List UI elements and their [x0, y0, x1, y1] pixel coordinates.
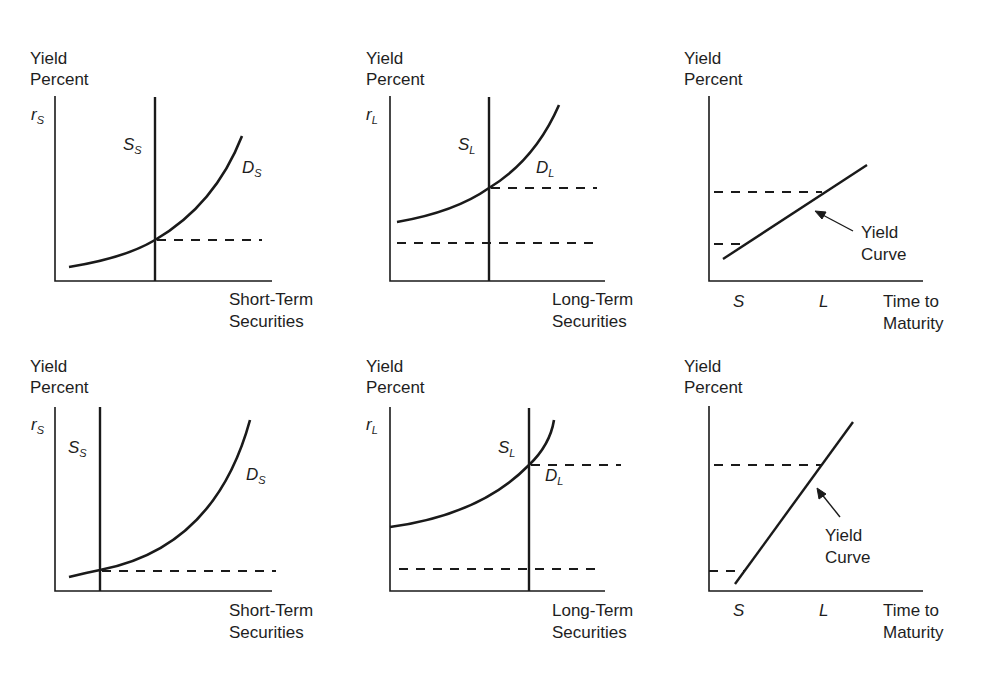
panel-2-y-label-line1: Yield: [366, 48, 403, 69]
panel-6-x-label-line1: Time to: [883, 600, 939, 621]
panel-3-y-label-line1: Yield: [684, 48, 721, 69]
panel-5-x-label-line2: Securities: [552, 622, 627, 643]
rate-subscript: L: [372, 424, 378, 436]
rate-symbol: r: [366, 415, 372, 434]
panel-4-supply-label: SS: [68, 437, 87, 460]
panel-1-x-label-line2: Securities: [229, 311, 304, 332]
panel-6-x-label-line2: Maturity: [883, 622, 943, 643]
panel-2-graphics: [390, 96, 605, 281]
panel-3-yield-curve: [723, 165, 867, 259]
panel-4-x-label-line2: Securities: [229, 622, 304, 643]
rate-symbol: r: [31, 105, 37, 124]
panel-4-y-label-line1: Yield: [30, 356, 67, 377]
panel-5-axes: [390, 407, 605, 591]
supply-symbol: S: [498, 438, 509, 457]
demand-symbol: D: [242, 158, 254, 177]
demand-symbol: D: [246, 465, 258, 484]
panel-4-graphics: [55, 407, 276, 591]
demand-symbol: D: [536, 158, 548, 177]
panel-5-y-symbol: rL: [366, 414, 378, 437]
panel-1-y-symbol: rS: [31, 104, 44, 127]
panel-4-y-symbol: rS: [31, 414, 44, 437]
demand-subscript: L: [557, 475, 563, 487]
supply-symbol: S: [458, 135, 469, 154]
supply-subscript: S: [79, 447, 86, 459]
rate-symbol: r: [366, 105, 372, 124]
rate-symbol: r: [31, 415, 37, 434]
panel-6-annotation-line1: Yield: [825, 525, 862, 546]
panel-5-y-label-line2: Percent: [366, 377, 425, 398]
panel-6-tick-long: L: [819, 600, 828, 621]
panel-3-x-label-line1: Time to: [883, 291, 939, 312]
panel-1-y-label-line2: Percent: [30, 69, 89, 90]
panel-3-y-label-line2: Percent: [684, 69, 743, 90]
panel-6-axes: [709, 406, 923, 591]
panel-4-axes: [55, 407, 272, 591]
panel-2-y-label-line2: Percent: [366, 69, 425, 90]
panel-4-demand-curve: [69, 420, 250, 577]
supply-symbol: S: [68, 438, 79, 457]
panel-1-y-label-line1: Yield: [30, 48, 67, 69]
panel-5-x-label-line1: Long-Term: [552, 600, 633, 621]
rate-subscript: S: [37, 424, 44, 436]
panel-1-supply-label: SS: [123, 134, 142, 157]
panel-1-demand-label: DS: [242, 157, 262, 180]
demand-subscript: S: [258, 474, 265, 486]
supply-subscript: S: [134, 144, 141, 156]
panel-1-x-label-line1: Short-Term: [229, 289, 313, 310]
demand-symbol: D: [545, 466, 557, 485]
panel-6-y-label-line1: Yield: [684, 356, 721, 377]
demand-subscript: L: [548, 167, 554, 179]
panel-2-x-label-line1: Long-Term: [552, 289, 633, 310]
panel-2-y-symbol: rL: [366, 104, 378, 127]
panel-1-graphics: [55, 96, 272, 281]
panel-3-tick-long: L: [819, 291, 828, 312]
panel-6-annotation-line2: Curve: [825, 547, 870, 568]
rate-subscript: L: [372, 114, 378, 126]
supply-subscript: L: [469, 144, 475, 156]
panel-5-supply-label: SL: [498, 437, 515, 460]
panel-4-y-label-line2: Percent: [30, 377, 89, 398]
panel-3-tick-short: S: [733, 291, 744, 312]
panel-4-demand-label: DS: [246, 464, 266, 487]
supply-symbol: S: [123, 135, 134, 154]
panel-4-x-label-line1: Short-Term: [229, 600, 313, 621]
panel-5-demand-label: DL: [545, 465, 563, 488]
panel-3-x-label-line2: Maturity: [883, 313, 943, 334]
panel-6-graphics: [709, 406, 923, 591]
panel-1-axes: [55, 96, 272, 281]
panel-2-demand-label: DL: [536, 157, 554, 180]
panel-6-y-label-line2: Percent: [684, 377, 743, 398]
rate-subscript: S: [37, 114, 44, 126]
demand-subscript: S: [254, 167, 261, 179]
panel-2-demand-curve: [397, 105, 559, 222]
panel-6-tick-short: S: [733, 600, 744, 621]
panel-3-annotation-line2: Curve: [861, 244, 906, 265]
supply-subscript: L: [509, 447, 515, 459]
panel-3-annotation-line1: Yield: [861, 222, 898, 243]
panel-2-supply-label: SL: [458, 134, 475, 157]
panel-3-arrow-head-icon: [815, 211, 826, 219]
figure-canvas: [0, 0, 984, 678]
panel-5-y-label-line1: Yield: [366, 356, 403, 377]
panel-2-x-label-line2: Securities: [552, 311, 627, 332]
panel-5-graphics: [390, 407, 621, 591]
